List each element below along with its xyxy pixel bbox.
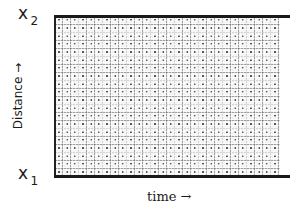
x-axis-label: time → <box>147 189 191 204</box>
y-axis-label: Distance → <box>11 63 25 129</box>
dotted-grid-fill <box>55 16 280 176</box>
left-boundary-line <box>54 16 56 176</box>
x1-label: x1 <box>18 163 39 183</box>
x2-label: x2 <box>18 3 39 23</box>
x2-label-main: x <box>18 3 29 23</box>
x2-label-subscript: 2 <box>31 14 39 28</box>
lower-boundary-line-x1 <box>54 175 290 178</box>
x1-label-main: x <box>18 163 29 183</box>
upper-boundary-line-x2 <box>54 15 290 18</box>
x1-label-subscript: 1 <box>31 174 39 188</box>
space-time-region <box>54 16 290 176</box>
